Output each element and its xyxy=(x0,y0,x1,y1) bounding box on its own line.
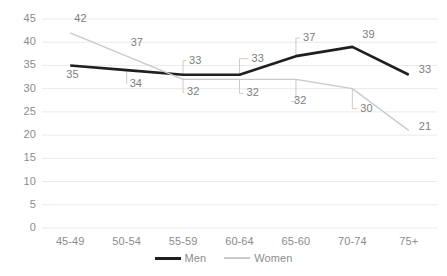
x-axis-tick-label: 60-64 xyxy=(210,235,270,247)
data-label-women: 30 xyxy=(360,102,372,114)
data-label-women: 32 xyxy=(187,85,199,97)
data-label-men: 35 xyxy=(66,68,78,80)
data-label-women: 32 xyxy=(247,86,259,98)
y-axis-tick-label: 30 xyxy=(14,82,36,94)
data-label-leader-line xyxy=(183,79,184,92)
legend-line-swatch-men-icon xyxy=(155,257,181,260)
y-axis-tick-label: 0 xyxy=(14,221,36,233)
data-label-women: 21 xyxy=(419,120,431,132)
gridlines-group xyxy=(42,19,437,228)
data-label-men: 37 xyxy=(303,31,315,43)
data-label-women: 32 xyxy=(294,94,306,106)
y-axis-tick-label: 25 xyxy=(14,105,36,117)
y-axis-tick-label: 15 xyxy=(14,151,36,163)
x-axis-tick-label: 65-60 xyxy=(266,235,326,247)
legend-label-women: Women xyxy=(254,252,292,264)
line-chart: 454035302520151050 45-4950-5455-5960-646… xyxy=(0,0,447,276)
data-label-leader-line xyxy=(240,79,244,93)
y-axis-tick-label: 40 xyxy=(14,35,36,47)
x-axis-tick-label: 75+ xyxy=(379,235,439,247)
x-axis-tick-label: 50-54 xyxy=(97,235,157,247)
y-axis-tick-label: 45 xyxy=(14,12,36,24)
y-axis-tick-label: 35 xyxy=(14,58,36,70)
data-label-men: 34 xyxy=(130,77,142,89)
data-label-women: 37 xyxy=(131,36,143,48)
y-axis-tick-label: 20 xyxy=(14,128,36,140)
data-label-leader-line xyxy=(183,61,186,75)
data-label-men: 33 xyxy=(189,54,201,66)
legend-item-men[interactable]: Men xyxy=(155,252,207,264)
x-axis-tick-label: 45-49 xyxy=(40,235,100,247)
x-axis-tick-label: 70-74 xyxy=(322,235,382,247)
legend-item-women[interactable]: Women xyxy=(224,252,292,264)
y-axis-tick-label: 5 xyxy=(14,198,36,210)
data-label-men: 33 xyxy=(419,63,431,75)
data-label-leader-line xyxy=(296,38,300,56)
x-axis-tick-label: 55-59 xyxy=(153,235,213,247)
legend-line-swatch-women-icon xyxy=(224,257,250,259)
data-label-men: 33 xyxy=(252,52,264,64)
y-axis-tick-label: 10 xyxy=(14,175,36,187)
data-label-women: 42 xyxy=(74,12,86,24)
chart-legend: Men Women xyxy=(0,252,447,264)
data-label-men: 39 xyxy=(362,28,374,40)
legend-label-men: Men xyxy=(185,252,207,264)
